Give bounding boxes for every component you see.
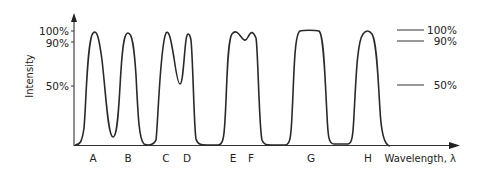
- ref-label-50: 50%: [434, 79, 457, 91]
- peak-label-b: B: [124, 152, 131, 164]
- y-axis-arrow-icon: [71, 13, 77, 22]
- y-tick-label-100: 100%: [39, 25, 69, 37]
- peak-label-c: C: [162, 152, 169, 164]
- ref-label-90: 90%: [434, 35, 457, 47]
- y-tick-label-50: 50%: [46, 80, 69, 92]
- peak-label-g: G: [307, 152, 315, 164]
- intensity-curve: [75, 30, 390, 146]
- peak-label-d: D: [183, 152, 191, 164]
- x-axis-title: Wavelength, λ: [384, 153, 456, 164]
- y-axis-title: Intensity: [24, 54, 35, 98]
- peak-label-h: H: [364, 152, 372, 164]
- spectral-resolution-diagram: 100% 90% 50% Intensity 100% 90% 50% A B …: [0, 0, 482, 178]
- peak-label-f: F: [248, 152, 254, 164]
- peak-label-e: E: [230, 152, 237, 164]
- peak-label-a: A: [89, 152, 97, 164]
- x-axis-arrow-icon: [449, 142, 460, 149]
- y-tick-label-90: 90%: [46, 37, 69, 49]
